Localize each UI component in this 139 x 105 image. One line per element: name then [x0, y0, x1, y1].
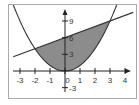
x-tick-label: 4 [123, 76, 128, 85]
y-tick-label: 9 [69, 17, 74, 26]
chart: -3-2-101234963-3 [0, 0, 139, 105]
x-tick-label: -2 [31, 76, 39, 85]
x-tick-label: 3 [108, 76, 113, 85]
x-tick-label: 2 [93, 76, 98, 85]
y-tick-label: -3 [69, 84, 77, 93]
x-tick-label: -3 [16, 76, 24, 85]
y-tick-label: 6 [69, 34, 74, 43]
x-tick-label: -1 [46, 76, 54, 85]
x-tick-label: 1 [78, 76, 83, 85]
y-tick-label: 3 [69, 50, 74, 59]
